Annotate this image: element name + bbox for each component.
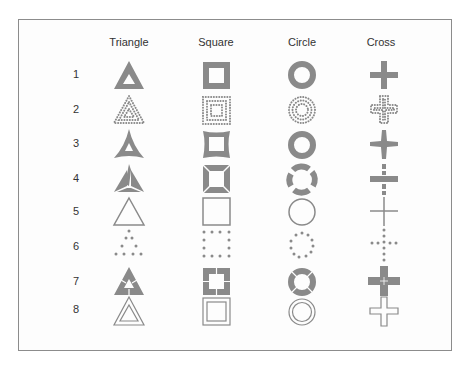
row8-cross-icon [370,297,398,326]
row6-circle-icon [290,232,315,259]
row4-square-icon [203,165,230,193]
row2-triangle-icon [114,96,144,123]
row4-cross-icon [370,164,398,195]
row1-triangle-icon [114,61,144,89]
row4-triangle-icon [114,164,144,192]
row5-circle-icon [289,199,315,225]
row3-triangle-icon [114,129,144,158]
row8-square-icon [203,298,230,325]
row7-triangle-icon [114,267,144,295]
row2-circle-icon [289,97,315,123]
row8-circle-icon [289,299,315,325]
shapes-canvas: .f { fill: #8a8a8a; } .s { fill: none; s… [0,0,470,372]
row4-circle-icon [289,166,314,192]
row6-square-icon [203,231,231,258]
row6-cross-icon [371,229,398,262]
row7-cross-icon [368,266,400,296]
row5-square-icon [203,198,230,225]
row5-cross-icon [370,197,398,226]
row7-circle-icon [291,271,313,293]
row3-circle-icon [291,134,313,156]
row1-square-icon [203,62,230,89]
row5-triangle-icon [114,198,144,225]
row1-circle-icon [291,64,313,86]
row2-square-icon [203,97,230,124]
row2-cross-icon [371,96,397,123]
row1-cross-icon [370,61,398,89]
row3-square-icon [203,131,230,158]
row7-square-icon [203,268,230,295]
row6-triangle-icon [115,230,143,256]
row3-cross-icon [370,130,398,159]
row8-triangle-icon [114,297,144,325]
